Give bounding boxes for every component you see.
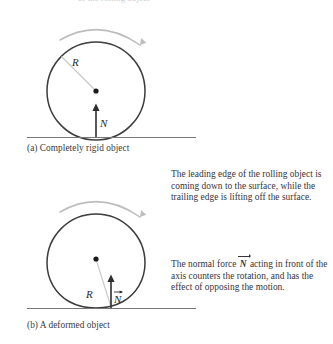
svg-text:N: N [113,293,122,305]
note-normal-force: The normal force N acting in front of th… [171,259,331,294]
center-dot-b [93,256,98,261]
center-dot-a [93,88,98,93]
normal-label-a: N [99,117,108,129]
clipped-top-text: of the rolling object [0,0,333,7]
radius-label-a: R [71,56,79,68]
radius-label-b: R [85,288,93,300]
caption-panel-a: (a) Completely rigid object [27,143,129,153]
diagram-panel-b: R N [0,186,230,320]
note-leading-edge: The leading edge of the rolling object i… [171,169,331,204]
normal-force-vector-symbol: N [239,259,248,269]
diagram-panel-a: R N [0,10,230,142]
note-normal-force-text-before: The normal force [171,259,239,269]
caption-panel-b: (b) A deformed object [27,320,110,330]
rolling-friction-figure: of the rolling object R N [0,0,333,344]
clipped-top-text-label: of the rolling object [78,0,149,3]
